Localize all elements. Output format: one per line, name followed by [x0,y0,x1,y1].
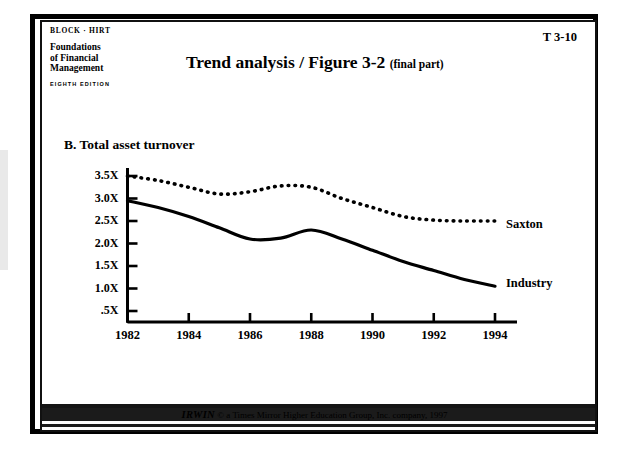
x-axis-tick-label: 1982 [103,328,153,343]
y-axis-tick-label: 3.5X [71,168,119,183]
x-axis-tick-label: 1994 [470,328,520,343]
scan-edge-artifact [0,150,8,270]
chart-section-heading: B. Total asset turnover [64,137,195,153]
publisher-authors: BLOCK · HIRT [50,26,160,35]
page-title: Trend analysis / Figure 3-2 (final part) [186,52,444,73]
y-axis-tick-label: 1.5X [71,258,119,273]
publisher-book-title-line3: Management [50,63,160,74]
page-title-sub: (final part) [390,58,444,70]
footer-bottom-rule [42,424,595,427]
y-axis-tick-label: 2.5X [71,213,119,228]
publisher-edition: EIGHTH EDITION [50,81,160,87]
y-axis-tick-label: 3.0X [71,191,119,206]
x-axis-tick-label: 1992 [409,328,459,343]
x-axis-tick-label: 1988 [286,328,336,343]
slide-canvas: BLOCK · HIRT Foundations of Financial Ma… [0,0,629,456]
page-title-main: Trend analysis / Figure 3-2 [186,52,385,72]
x-axis-tick-label: 1990 [348,328,398,343]
publisher-block: BLOCK · HIRT Foundations of Financial Ma… [50,26,160,87]
publisher-book-title-line1: Foundations [50,42,160,53]
slide-number: T 3-10 [543,30,577,45]
x-axis-tick-label: 1986 [225,328,275,343]
footer-copyright: © a Times Mirror Higher Education Group,… [217,410,447,420]
series-label-industry: Industry [506,276,553,291]
x-axis-tick-label: 1984 [164,328,214,343]
footer-top-rule [42,404,595,408]
publisher-book-title: Foundations of Financial Management [50,42,160,74]
publisher-book-title-line2: of Financial [50,53,160,64]
footer-text: IRWIN © a Times Mirror Higher Education … [0,409,629,420]
y-axis-tick-label: .5X [71,303,119,318]
y-axis-tick-label: 1.0X [71,281,119,296]
footer-brand: IRWIN [182,409,215,420]
series-label-saxton: Saxton [506,217,543,232]
y-axis-tick-label: 2.0X [71,236,119,251]
